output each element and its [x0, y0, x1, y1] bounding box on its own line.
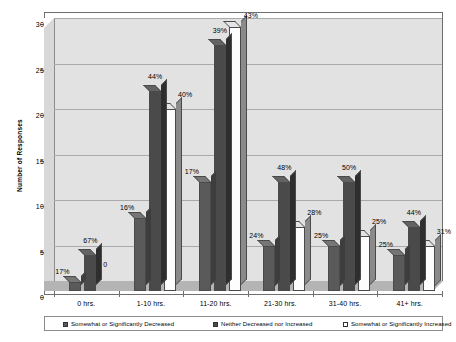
bar-face	[199, 182, 211, 291]
bar-group: 25%44%31%	[393, 12, 435, 291]
bar	[199, 182, 211, 291]
bar-data-label: 25%	[379, 241, 393, 248]
legend-swatch-icon	[213, 322, 218, 327]
bar-group: 17%67%0	[69, 12, 111, 291]
bar	[69, 282, 81, 291]
bar-side	[435, 234, 441, 286]
bar-side	[420, 215, 426, 285]
bar-top	[143, 85, 161, 91]
bar-face	[69, 282, 81, 291]
bar-data-label: 0	[103, 261, 107, 268]
bar-top	[272, 176, 290, 182]
legend-item: Neither Decreased nor Increased	[213, 320, 312, 328]
x-axis-tick-label: 31-40 hrs.	[313, 300, 378, 308]
bar-top	[128, 212, 146, 218]
bar-data-label: 25%	[372, 218, 386, 225]
bar-data-label: 24%	[249, 232, 263, 239]
legend-item: Somewhat or Significantly Increased	[343, 320, 452, 328]
bar-side	[405, 243, 411, 285]
bar-data-label: 44%	[407, 209, 421, 216]
bar-data-label: 16%	[120, 204, 134, 211]
legend-swatch-icon	[63, 322, 68, 327]
bar-data-label: 25%	[314, 232, 328, 239]
legend-label: Somewhat or Significantly Decreased	[71, 321, 174, 327]
bar-side	[355, 170, 361, 285]
bar-side	[340, 234, 346, 286]
x-axis-tick-label: 21-30 hrs.	[248, 300, 313, 308]
bar-top	[257, 240, 275, 246]
bar-data-label: 39%	[213, 27, 227, 34]
x-axis-tick-label: 11-20 hrs.	[183, 300, 248, 308]
legend-label: Neither Decreased nor Increased	[221, 321, 312, 327]
y-axis-title: Number of Responses	[16, 101, 23, 211]
bar-data-label: 43%	[244, 12, 258, 19]
bar-group: 17%39%43%	[199, 12, 241, 291]
bar-top	[193, 176, 211, 182]
x-axis-tick-mark	[119, 291, 120, 297]
bar-data-label: 48%	[277, 164, 291, 171]
bar-data-label: 50%	[342, 164, 356, 171]
x-axis-tick-label: 1-10 hrs.	[119, 300, 184, 308]
bar-top	[78, 249, 96, 255]
bar-data-label: 31%	[437, 228, 451, 235]
bar-data-label: 17%	[185, 168, 199, 175]
bar-side	[305, 215, 311, 285]
bar-top	[402, 221, 420, 227]
legend-item: Somewhat or Significantly Decreased	[63, 320, 174, 328]
bar-side	[290, 170, 296, 285]
bar-data-label: 17%	[55, 268, 69, 275]
bar-side	[226, 33, 232, 285]
bar-data-label: 28%	[307, 209, 321, 216]
bar-side	[146, 206, 152, 285]
bar-side	[275, 234, 281, 286]
bar-face	[393, 255, 405, 291]
x-axis-tick-mark	[377, 291, 378, 297]
bar-data-label: 44%	[148, 73, 162, 80]
bar-data-label: 67%	[83, 237, 97, 244]
x-axis-tick-label: 0 hrs.	[54, 300, 119, 308]
y-axis-tick-mark	[40, 297, 44, 298]
bar	[134, 218, 146, 291]
x-axis: 0 hrs.1-10 hrs.11-20 hrs.21-30 hrs.31-40…	[44, 300, 443, 312]
bar-side	[161, 79, 167, 285]
bar	[393, 255, 405, 291]
bars-layer: 17%67%016%44%40%17%39%43%24%48%28%25%50%…	[44, 12, 443, 291]
bar-top	[387, 249, 405, 255]
bar-side	[176, 97, 182, 285]
bar-top	[322, 240, 340, 246]
bar-side	[211, 170, 217, 285]
bar-face	[328, 246, 340, 292]
bar-chart: Number of Responses 302520151050 17%67%0…	[0, 0, 456, 342]
bar-group: 24%48%28%	[263, 12, 305, 291]
bar-group: 16%44%40%	[134, 12, 176, 291]
bar-top	[208, 39, 226, 45]
legend-swatch-icon	[343, 322, 348, 327]
bar-data-label: 40%	[178, 91, 192, 98]
bar-top	[63, 276, 81, 282]
x-axis-tick-label: 41+ hrs.	[377, 300, 442, 308]
bar-face	[263, 246, 275, 292]
x-axis-tick-mark	[442, 291, 443, 297]
x-axis-tick-mark	[183, 291, 184, 297]
bar-side	[96, 243, 102, 285]
bar	[263, 246, 275, 292]
bar-side	[370, 224, 376, 285]
chart-legend: Somewhat or Significantly DecreasedNeith…	[44, 316, 443, 331]
bar-face	[134, 218, 146, 291]
x-axis-tick-mark	[248, 291, 249, 297]
legend-label: Somewhat or Significantly Increased	[351, 321, 452, 327]
x-axis-tick-mark	[54, 291, 55, 297]
bar-group: 25%50%25%	[328, 12, 370, 291]
x-axis-tick-mark	[313, 291, 314, 297]
bar	[328, 246, 340, 292]
bar-side	[241, 15, 247, 285]
bar-top	[223, 21, 241, 27]
bar-top	[337, 176, 355, 182]
